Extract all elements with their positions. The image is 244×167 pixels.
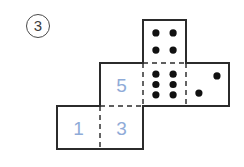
middle-center-face-six-pips-pip-1 <box>152 71 159 78</box>
middle-center-face-six-pips-background <box>143 63 186 106</box>
middle-center-face-six-pips-pip-4 <box>170 81 177 88</box>
top-face-four-pips-pip-1 <box>152 29 159 36</box>
middle-center-face-six-pips-pip-5 <box>152 91 159 98</box>
bottom-left-face-one-label: 1 <box>73 118 84 139</box>
puzzle-figure: 3 513 <box>0 0 244 167</box>
middle-right-face-two-pips-background <box>186 63 229 106</box>
middle-right-face-two-pips-pip-2 <box>213 72 220 79</box>
cube-net-diagram: 513 <box>0 0 244 167</box>
top-face-four-pips-pip-3 <box>152 47 159 54</box>
middle-center-face-six-pips-pip-3 <box>152 81 159 88</box>
middle-center-face-six-pips-pip-2 <box>170 71 177 78</box>
middle-left-face-five-label: 5 <box>116 75 127 96</box>
top-face-four-pips-pip-2 <box>170 29 177 36</box>
bottom-right-face-three-label: 3 <box>116 118 127 139</box>
top-face-four-pips-pip-4 <box>170 47 177 54</box>
middle-right-face-two-pips-pip-1 <box>195 90 202 97</box>
middle-center-face-six-pips-pip-6 <box>170 91 177 98</box>
top-face-four-pips-background <box>143 20 186 63</box>
